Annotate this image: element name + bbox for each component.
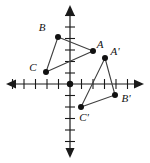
vertex-a-prime bbox=[102, 55, 108, 61]
x-axis-group bbox=[6, 79, 144, 89]
vertex-c-prime bbox=[78, 104, 84, 110]
vertex-label-c: C bbox=[29, 61, 37, 73]
vertex-label-c-prime: C' bbox=[79, 111, 89, 123]
x-axis-right-arrow-icon bbox=[134, 80, 144, 89]
vertex-label-b: B bbox=[39, 21, 46, 33]
vertex-label-a-prime: A' bbox=[109, 45, 120, 57]
origin-point bbox=[67, 81, 73, 87]
vertex-b bbox=[55, 34, 61, 40]
coordinate-plane-svg: B A C A' B' C' bbox=[0, 0, 150, 163]
coordinate-plane-figure: B A C A' B' C' bbox=[0, 0, 150, 163]
vertex-a bbox=[90, 48, 96, 54]
triangle-a-prime-outline bbox=[81, 58, 115, 107]
y-axis-down-arrow-icon bbox=[66, 148, 75, 158]
vertex-c bbox=[43, 69, 49, 75]
triangle-abc: B A C bbox=[29, 21, 103, 75]
x-axis-left-arrow-icon bbox=[6, 80, 16, 89]
y-axis-up-arrow-icon bbox=[66, 5, 75, 15]
vertex-label-a: A bbox=[96, 38, 104, 50]
vertex-b-prime bbox=[112, 92, 118, 98]
vertex-label-b-prime: B' bbox=[121, 92, 131, 104]
